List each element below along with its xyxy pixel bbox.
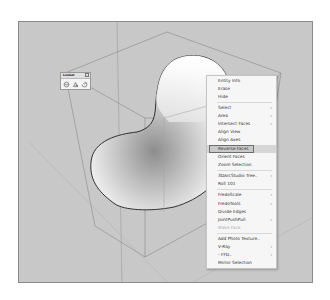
menu-separator	[217, 189, 272, 190]
menu-item-divide-edges[interactable]: Divide Edges	[207, 208, 276, 216]
menu-item-align-view[interactable]: Align View	[207, 128, 276, 136]
menu-item-ffd[interactable]: - FFD..›	[207, 251, 276, 259]
menu-item-v-ray[interactable]: V-Ray›	[207, 243, 276, 251]
close-icon[interactable]	[85, 73, 89, 77]
context-menu: Entity Info Erase Hide Select› Area› Int…	[206, 75, 277, 269]
toolbar-title: Lookat	[63, 73, 75, 78]
look-around-icon[interactable]	[72, 81, 79, 88]
menu-item-erase[interactable]: Erase	[207, 85, 276, 93]
menu-item-jointpushpull[interactable]: JointPushPull›	[207, 216, 276, 224]
menu-item-add-photo-texture[interactable]: Add Photo Texture..	[207, 235, 276, 243]
submenu-arrow-icon: ›	[270, 172, 272, 180]
submenu-arrow-icon: ›	[270, 104, 272, 112]
menu-item-fredotools[interactable]: FredoTools›	[207, 200, 276, 208]
submenu-arrow-icon: ›	[270, 112, 272, 120]
menu-item-hide[interactable]: Hide	[207, 93, 276, 101]
menu-separator	[217, 233, 272, 234]
toolbar-title-bar[interactable]: Lookat	[61, 73, 90, 79]
submenu-arrow-icon: ›	[270, 120, 272, 128]
menu-item-select[interactable]: Select›	[207, 104, 276, 112]
menu-item-roll-101[interactable]: Roll 101	[207, 180, 276, 188]
submenu-arrow-icon: ›	[270, 216, 272, 224]
camera-orbit-icon[interactable]	[63, 81, 70, 88]
menu-separator	[217, 170, 272, 171]
menu-item-make-face: Make Face	[207, 224, 276, 232]
submenu-arrow-icon: ›	[270, 191, 272, 199]
menu-item-align-axes[interactable]: Align Axes	[207, 136, 276, 144]
lookat-toolbar[interactable]: Lookat	[60, 72, 91, 90]
menu-item-orient-faces[interactable]: Orient Faces	[207, 153, 276, 161]
submenu-arrow-icon: ›	[270, 243, 272, 251]
menu-item-3darcstudio-tree[interactable]: 3DArcStudio Tree..›	[207, 172, 276, 180]
menu-item-zoom-selection[interactable]: Zoom Selection	[207, 161, 276, 169]
menu-item-entity-info[interactable]: Entity Info	[207, 77, 276, 85]
menu-separator	[217, 102, 272, 103]
menu-item-intersect-faces[interactable]: Intersect Faces›	[207, 120, 276, 128]
menu-item-reverse-faces[interactable]: Reverse Faces	[207, 145, 276, 153]
menu-item-area[interactable]: Area›	[207, 112, 276, 120]
menu-item-mirror-selection[interactable]: Mirror Selection	[207, 259, 276, 267]
rotate-view-icon[interactable]	[81, 81, 88, 88]
menu-item-fredoscale[interactable]: FredoScale›	[207, 191, 276, 199]
submenu-arrow-icon: ›	[270, 251, 272, 259]
submenu-arrow-icon: ›	[270, 200, 272, 208]
